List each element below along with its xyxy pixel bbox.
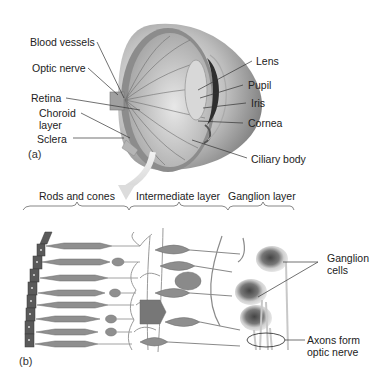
layer-label-ganglion: Ganglion layer: [228, 190, 296, 202]
label-retina: Retina: [31, 92, 61, 104]
label-ganglion-cells-line2: cells: [327, 264, 348, 276]
label-pupil: Pupil: [248, 79, 271, 91]
axon-bundle-ring: [247, 333, 285, 347]
label-ganglion-cells-line1: Ganglion: [327, 252, 369, 264]
eye-anatomy-figure: Blood vessels Optic nerve Retina Choroid…: [0, 0, 390, 384]
panel-b-tag: (b): [19, 355, 32, 367]
label-iris: Iris: [251, 97, 265, 109]
label-axons-line2: optic nerve: [307, 346, 358, 358]
label-choroid-layer-line1: Choroid: [39, 107, 76, 119]
label-blood-vessels: Blood vessels: [30, 36, 95, 48]
label-axons-line1: Axons form: [307, 334, 360, 346]
retina-cell-layers: [25, 228, 288, 352]
eyeball-cross-section: [110, 24, 262, 172]
label-optic-nerve: Optic nerve: [32, 62, 86, 74]
label-ciliary-body: Ciliary body: [251, 153, 306, 165]
arrow-head: [118, 185, 135, 200]
panel-a-tag: (a): [28, 148, 41, 160]
ganglion-cells: [235, 246, 288, 350]
label-choroid-layer-line2: layer: [39, 119, 62, 131]
label-cornea: Cornea: [248, 117, 282, 129]
layer-label-intermediate: Intermediate layer: [136, 190, 220, 202]
label-sclera: Sclera: [37, 133, 67, 145]
label-lens: Lens: [256, 55, 279, 67]
layer-label-rods-cones: Rods and cones: [39, 190, 115, 202]
layer-braces: [23, 202, 294, 210]
